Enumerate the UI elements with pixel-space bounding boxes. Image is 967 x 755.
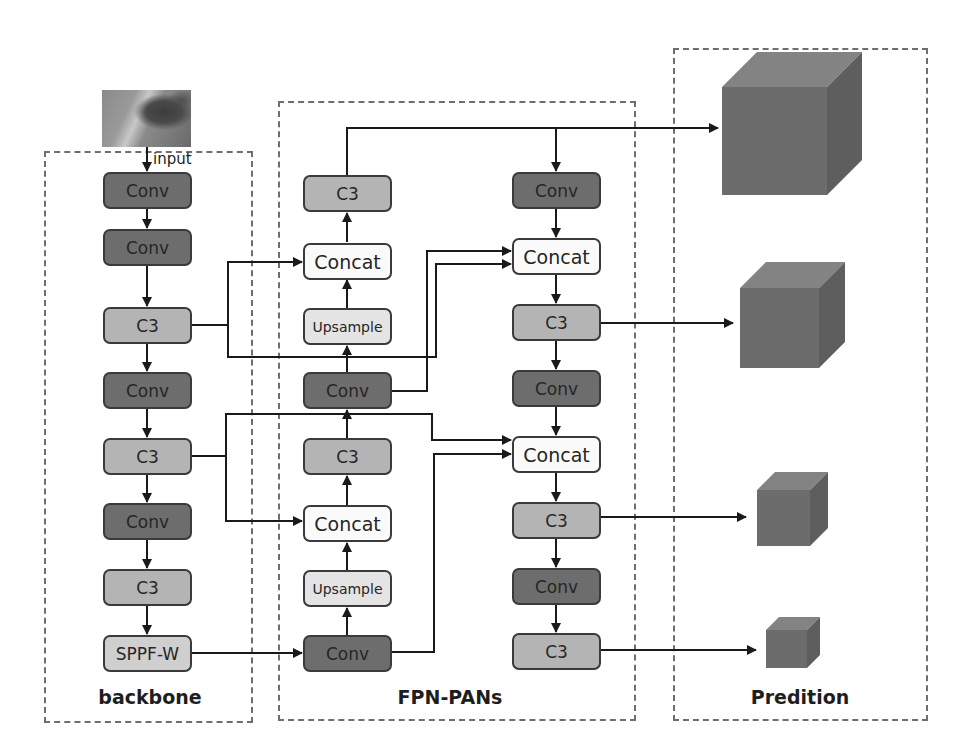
pan-c3-1: C3 [512, 304, 601, 341]
fpn-concat-2: Concat [303, 505, 392, 542]
output-cube-tiny [766, 617, 820, 668]
network-architecture-diagram: backbone FPN-PANs Predition input [0, 0, 967, 755]
fpn-conv-1: Conv [303, 372, 392, 409]
output-cube-medium [740, 262, 845, 368]
fpn-c3-top: C3 [303, 175, 392, 212]
pan-concat-2: Concat [512, 436, 601, 473]
backbone-c3-3: C3 [103, 569, 192, 606]
fpn-upsample-1: Upsample [303, 308, 392, 345]
backbone-conv-4: Conv [103, 503, 192, 540]
pan-c3-2: C3 [512, 502, 601, 539]
pan-conv-1: Conv [512, 172, 601, 209]
output-cube-large [722, 52, 862, 195]
backbone-sppf-w: SPPF-W [103, 635, 192, 672]
backbone-c3-2: C3 [103, 438, 192, 475]
backbone-conv-1: Conv [103, 172, 192, 209]
pan-c3-3: C3 [512, 633, 601, 670]
backbone-c3-1: C3 [103, 307, 192, 344]
pan-conv-2: Conv [512, 370, 601, 407]
backbone-conv-3: Conv [103, 372, 192, 409]
fpn-upsample-2: Upsample [303, 570, 392, 607]
pan-conv-3: Conv [512, 568, 601, 605]
fpn-c3-mid: C3 [303, 438, 392, 475]
backbone-conv-2: Conv [103, 229, 192, 266]
fpn-concat-1: Concat [303, 243, 392, 280]
pan-concat-1: Concat [512, 238, 601, 275]
fpn-conv-2: Conv [303, 635, 392, 672]
output-cube-small [757, 472, 828, 546]
